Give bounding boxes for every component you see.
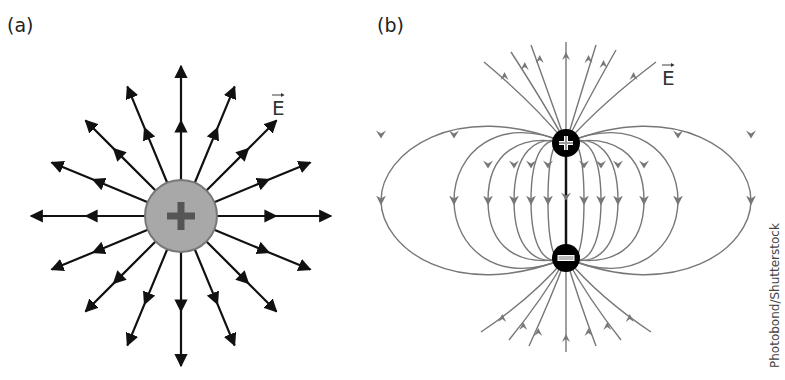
image-credit: Photobond/Shutterstock	[768, 223, 782, 368]
panel-a-label: (a)	[7, 14, 33, 36]
point-charge-field	[31, 66, 331, 366]
electric-field-vector-label-a: E	[272, 96, 285, 120]
vector-arrow-icon	[272, 92, 285, 98]
panel-b-label: (b)	[377, 14, 404, 36]
minus-icon	[558, 256, 574, 261]
field-diagram	[0, 0, 785, 380]
electric-field-vector-label-b: E	[662, 66, 675, 90]
dipole-field	[376, 42, 756, 352]
vector-arrow-icon	[662, 62, 675, 68]
